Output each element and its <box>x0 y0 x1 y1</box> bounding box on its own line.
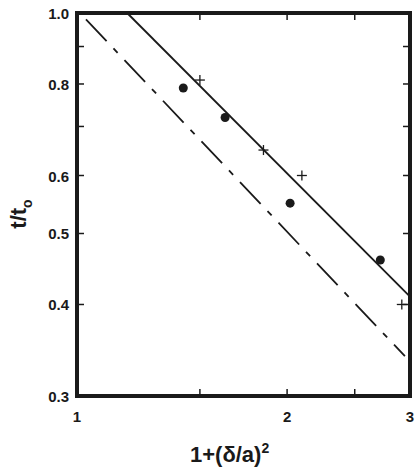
y-tick-label: 0.5 <box>48 225 69 242</box>
dashed-fit-line <box>86 19 405 356</box>
y-tick-label: 0.4 <box>48 296 70 313</box>
chart: 0.30.40.50.60.81.0123 1+(δ/a)2 t/to <box>0 0 419 476</box>
x-tick-label: 2 <box>283 408 291 425</box>
y-tick-label: 0.6 <box>48 168 69 185</box>
x-axis-title: 1+(δ/a)2 <box>190 440 269 467</box>
data-point-circle <box>286 199 295 208</box>
y-tick-label: 1.0 <box>48 5 69 22</box>
y-tick-label: 0.8 <box>48 76 69 93</box>
plot-area <box>86 13 410 356</box>
solid-fit-line <box>127 13 410 297</box>
plot-frame <box>77 13 410 396</box>
y-axis-title: t/to <box>6 199 35 228</box>
x-tick-label: 1 <box>73 408 81 425</box>
data-point-circle <box>179 83 188 92</box>
axis-ticks: 0.30.40.50.60.81.0123 <box>48 5 414 425</box>
data-point-cross <box>297 171 307 181</box>
x-tick-label: 3 <box>406 408 414 425</box>
y-tick-label: 0.3 <box>48 388 69 405</box>
